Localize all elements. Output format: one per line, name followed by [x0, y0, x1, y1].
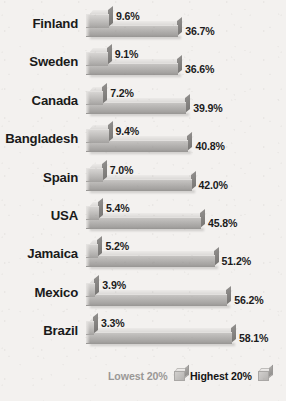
category-label: Spain — [0, 171, 78, 185]
bar-lowest-20 — [86, 14, 109, 27]
legend-label-lowest: Lowest 20% — [108, 370, 168, 382]
category-label: Canada — [0, 94, 78, 108]
bar-lowest-20 — [86, 52, 108, 65]
bar-value-highest-20: 42.0% — [199, 179, 228, 191]
legend-label-highest: Highest 20% — [190, 370, 252, 382]
bar-highest-20 — [86, 255, 215, 266]
chart-row: Spain42.0%7.0% — [0, 162, 286, 200]
bar-value-lowest-20: 3.9% — [102, 279, 126, 291]
bar-lowest-20 — [86, 129, 109, 142]
bar-lowest-20 — [86, 91, 103, 104]
bar-value-lowest-20: 5.2% — [105, 240, 129, 252]
category-label: Bangladesh — [0, 132, 78, 146]
bar-lowest-20 — [86, 283, 95, 296]
bar-value-highest-20: 58.1% — [239, 332, 268, 344]
bar-value-lowest-20: 7.2% — [110, 87, 134, 99]
category-label: Jamaica — [0, 247, 78, 261]
legend-swatch-cube-icon — [258, 368, 273, 381]
bar-lowest-20 — [86, 244, 98, 257]
bar-lowest-20 — [86, 206, 99, 219]
bar-value-lowest-20: 9.4% — [116, 125, 140, 137]
category-label: USA — [0, 209, 78, 223]
bar-value-highest-20: 45.8% — [208, 217, 237, 229]
category-label: Finland — [0, 17, 78, 31]
chart-row: Finland36.7%9.6% — [0, 8, 286, 46]
income-share-bar-chart: Finland36.7%9.6%Sweden36.6%9.1%Canada39.… — [0, 0, 286, 401]
chart-row: Jamaica51.2%5.2% — [0, 238, 286, 276]
bar-value-lowest-20: 9.6% — [116, 10, 140, 22]
chart-row: USA45.8%5.4% — [0, 200, 286, 238]
bar-value-highest-20: 40.8% — [195, 140, 224, 152]
bar-lowest-20 — [86, 168, 103, 181]
bar-value-lowest-20: 3.3% — [101, 317, 125, 329]
bar-value-highest-20: 36.7% — [185, 25, 214, 37]
chart-row: Mexico56.2%3.9% — [0, 277, 286, 315]
legend-swatch-cube-icon — [174, 368, 189, 381]
category-label: Mexico — [0, 286, 78, 300]
chart-legend: Lowest 20% Highest 20% — [0, 362, 286, 394]
category-label: Brazil — [0, 324, 78, 338]
bar-value-lowest-20: 7.0% — [110, 164, 134, 176]
chart-row: Canada39.9%7.2% — [0, 85, 286, 123]
bar-highest-20 — [86, 217, 201, 228]
chart-row: Sweden36.6%9.1% — [0, 46, 286, 84]
bar-value-lowest-20: 5.4% — [106, 202, 130, 214]
bar-value-highest-20: 51.2% — [222, 255, 251, 267]
bar-highest-20 — [86, 332, 232, 343]
category-label: Sweden — [0, 55, 78, 69]
bar-highest-20 — [86, 294, 227, 305]
bar-lowest-20 — [86, 321, 94, 334]
bar-value-lowest-20: 9.1% — [115, 48, 139, 60]
bar-value-highest-20: 36.6% — [185, 63, 214, 75]
bar-value-highest-20: 56.2% — [234, 294, 263, 306]
chart-row: Bangladesh40.8%9.4% — [0, 123, 286, 161]
bar-value-highest-20: 39.9% — [193, 102, 222, 114]
chart-row: Brazil58.1%3.3% — [0, 315, 286, 353]
